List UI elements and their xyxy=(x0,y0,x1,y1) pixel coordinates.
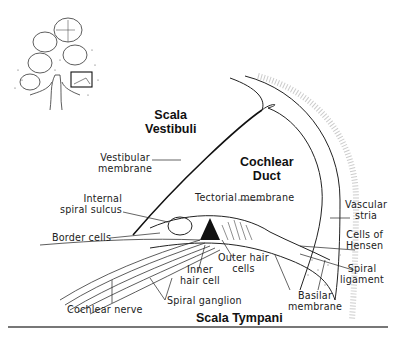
label-outer-hair-cells: Outer hair cells xyxy=(218,252,269,274)
region-scala-tympani: Scala Tympani xyxy=(196,311,283,325)
region-cochlear-duct-line1: Cochlear xyxy=(240,155,294,169)
label-vestibular-membrane-l2: membrane xyxy=(98,163,152,174)
label-basilar-membrane-l2: membrane xyxy=(288,301,342,312)
label-internal-spiral-sulcus-l2: spiral sulcus xyxy=(60,204,122,215)
region-scala-vestibuli-line1: Scala xyxy=(145,108,196,122)
label-spiral-ligament: Spiral ligament xyxy=(340,263,384,285)
label-internal-spiral-sulcus-l1: Internal xyxy=(60,193,122,204)
label-internal-spiral-sulcus: Internal spiral sulcus xyxy=(60,193,122,215)
region-cochlear-duct-line2: Duct xyxy=(240,169,294,183)
label-vascular-stria-l1: Vascular xyxy=(345,199,387,210)
label-cells-of-hensen: Cells of Hensen xyxy=(346,229,383,251)
label-spiral-ganglion: Spiral ganglion xyxy=(167,295,242,306)
region-scala-vestibuli: Scala Vestibuli xyxy=(145,108,196,136)
label-tectorial-membrane: Tectorial membrane xyxy=(195,192,294,203)
label-cochlear-nerve: Cochlear nerve xyxy=(67,304,143,315)
label-inner-hair-cell-l1: Inner xyxy=(180,264,220,275)
cochlea-inset-icon xyxy=(14,18,98,110)
label-vestibular-membrane: Vestibular membrane xyxy=(98,152,152,174)
label-outer-hair-cells-l2: cells xyxy=(218,263,269,274)
label-basilar-membrane-l1: Basilar xyxy=(288,290,342,301)
label-vascular-stria: Vascular stria xyxy=(345,199,387,221)
region-cochlear-duct: Cochlear Duct xyxy=(240,155,294,183)
label-vascular-stria-l2: stria xyxy=(345,210,387,221)
label-outer-hair-cells-l1: Outer hair xyxy=(218,252,269,263)
label-cells-of-hensen-l2: Hensen xyxy=(346,240,383,251)
label-basilar-membrane: Basilar membrane xyxy=(288,290,342,312)
label-spiral-ligament-l2: ligament xyxy=(340,274,384,285)
label-border-cells: Border cells xyxy=(52,232,111,243)
label-cells-of-hensen-l1: Cells of xyxy=(346,229,383,240)
bottom-rule xyxy=(8,326,388,328)
label-inner-hair-cell-l2: hair cell xyxy=(180,275,220,286)
label-vestibular-membrane-l1: Vestibular xyxy=(98,152,152,163)
label-spiral-ligament-l1: Spiral xyxy=(340,263,384,274)
region-scala-vestibuli-line2: Vestibuli xyxy=(145,122,196,136)
label-inner-hair-cell: Inner hair cell xyxy=(180,264,220,286)
